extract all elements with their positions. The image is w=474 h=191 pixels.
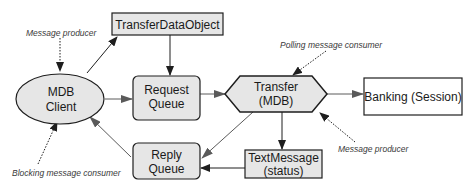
diagram-canvas: MDB Client TransferDataObject Request Qu… [0, 0, 474, 191]
annotation-blocking-consumer: Blocking message consumer [12, 168, 122, 178]
pointer-polling-consumer [293, 51, 326, 75]
node-transfer-data-object[interactable]: TransferDataObject [112, 13, 223, 35]
request-queue-line2: Queue [148, 97, 184, 111]
banking-session-label: Banking (Session) [364, 90, 461, 104]
node-text-message[interactable]: TextMessage (status) [245, 150, 322, 178]
edge-reply-queue-to-client [90, 117, 131, 157]
node-transfer-mdb[interactable]: Transfer (MDB) [225, 76, 327, 112]
pointer-mdb-producer [320, 113, 355, 142]
reply-queue-line2: Queue [148, 162, 184, 176]
node-banking-session[interactable]: Banking (Session) [364, 78, 462, 115]
mdb-client-shape [16, 74, 104, 124]
text-message-line2: (status) [263, 164, 303, 178]
transfer-mdb-line2: (MDB) [259, 94, 294, 108]
node-request-queue[interactable]: Request Queue [133, 76, 200, 120]
request-queue-line1: Request [144, 83, 189, 97]
annotation-client-producer: Message producer [26, 28, 98, 38]
node-reply-queue[interactable]: Reply Queue [133, 143, 200, 179]
reply-queue-line1: Reply [151, 148, 182, 162]
text-message-line1: TextMessage [248, 151, 319, 165]
annotation-polling-consumer: Polling message consumer [280, 40, 383, 50]
mdb-client-line1: MDB [48, 85, 75, 99]
edge-client-to-tdo [87, 37, 117, 73]
annotation-mdb-producer: Message producer [338, 144, 410, 154]
mdb-client-line2: Client [46, 100, 77, 114]
pointer-blocking-consumer [38, 122, 57, 164]
transfer-mdb-line1: Transfer [254, 80, 298, 94]
transfer-data-object-label: TransferDataObject [115, 18, 220, 32]
node-mdb-client[interactable]: MDB Client [16, 74, 104, 124]
